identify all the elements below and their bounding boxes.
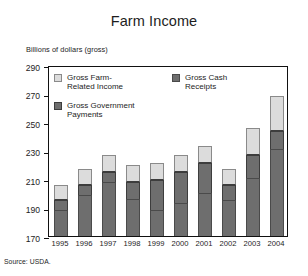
bar-segment-farm: [126, 165, 140, 182]
y-axis-tick: 270: [26, 87, 49, 105]
x-axis-tick-label: 2000: [172, 239, 189, 248]
bar-segment-govt: [54, 200, 68, 210]
y-axis-tick-label: 270: [26, 91, 40, 101]
legend-item-farm-related-income: Gross Farm- Related Income: [54, 73, 123, 92]
x-axis-tick-label: 2003: [244, 239, 261, 248]
bar-segment-farm: [102, 155, 116, 172]
bar-segment-govt: [102, 172, 116, 182]
bar-segment-farm: [222, 169, 236, 185]
bar-1998: [126, 165, 140, 236]
y-axis-tick: 290: [26, 58, 49, 76]
bar-segment-govt: [150, 180, 164, 210]
bar-1997: [102, 155, 116, 236]
bar-segment-govt: [222, 185, 236, 201]
legend-swatch-icon-farm: [54, 74, 62, 82]
legend-label: Gross Government Payments: [67, 101, 135, 120]
legend-item-government-payments: Gross Government Payments: [54, 101, 135, 120]
bar-segment-cash: [126, 199, 140, 236]
bar-1999: [150, 163, 164, 236]
bar-segment-govt: [270, 131, 284, 150]
y-axis-tick: 230: [26, 144, 49, 162]
bar-2002: [222, 169, 236, 236]
source-note: Source: USDA.: [4, 258, 51, 265]
y-axis-tick: 210: [26, 172, 49, 190]
bar-segment-farm: [174, 155, 188, 172]
bar-segment-cash: [102, 182, 116, 236]
bar-segment-cash: [222, 200, 236, 236]
y-axis-tick-label: 190: [26, 205, 40, 215]
x-axis-tick-label: 2001: [196, 239, 213, 248]
legend-swatch-icon-govt: [54, 102, 62, 110]
farm-income-chart: Farm Income Billions of dollars (gross) …: [0, 0, 308, 276]
bar-segment-cash: [198, 193, 212, 236]
legend-label: Gross Cash Receipts: [185, 73, 227, 92]
bar-segment-cash: [270, 149, 284, 236]
legend-item-cash-receipts: Gross Cash Receipts: [172, 73, 227, 92]
bar-1995: [54, 185, 68, 236]
bar-segment-govt: [126, 182, 140, 199]
y-axis-tick-label: 210: [26, 177, 40, 187]
y-axis-tick-mark: [44, 238, 49, 239]
y-axis-tick: 190: [26, 201, 49, 219]
x-axis-tick-label: 2002: [220, 239, 237, 248]
x-axis-tick-label: 1998: [124, 239, 141, 248]
bar-segment-govt: [198, 163, 212, 193]
bar-segment-cash: [78, 195, 92, 236]
bar-1996: [78, 169, 92, 236]
bar-segment-govt: [78, 185, 92, 195]
y-axis-tick-label: 230: [26, 148, 40, 158]
x-axis-tick-label: 1997: [100, 239, 117, 248]
bar-segment-govt: [246, 155, 260, 178]
bar-segment-cash: [174, 203, 188, 236]
chart-legend: Gross Farm- Related Income Gross Cash Re…: [48, 66, 288, 126]
bar-segment-farm: [246, 128, 260, 155]
y-axis-tick-label: 290: [26, 63, 40, 73]
x-axis-tick-label: 1995: [52, 239, 69, 248]
y-axis-tick: 170: [26, 229, 49, 247]
legend-label: Gross Farm- Related Income: [67, 73, 123, 92]
y-axis-tick-label: 250: [26, 120, 40, 130]
x-axis-tick-label: 1996: [76, 239, 93, 248]
chart-title: Farm Income: [0, 13, 308, 29]
y-axis-unit-label: Billions of dollars (gross): [26, 45, 108, 54]
y-axis-tick: 250: [26, 115, 49, 133]
bar-segment-govt: [174, 172, 188, 203]
x-axis-tick-label: 2004: [268, 239, 285, 248]
legend-swatch-icon-cash: [172, 74, 180, 82]
bar-2000: [174, 155, 188, 236]
bar-segment-cash: [54, 210, 68, 236]
bar-segment-cash: [150, 210, 164, 236]
y-axis-tick-label: 170: [26, 234, 40, 244]
bar-2003: [246, 128, 260, 236]
bar-2001: [198, 146, 212, 236]
bar-segment-farm: [198, 146, 212, 163]
bar-segment-farm: [78, 169, 92, 185]
bar-segment-cash: [246, 178, 260, 236]
x-axis-tick-label: 1999: [148, 239, 165, 248]
bar-segment-farm: [150, 163, 164, 180]
bar-segment-farm: [54, 185, 68, 201]
